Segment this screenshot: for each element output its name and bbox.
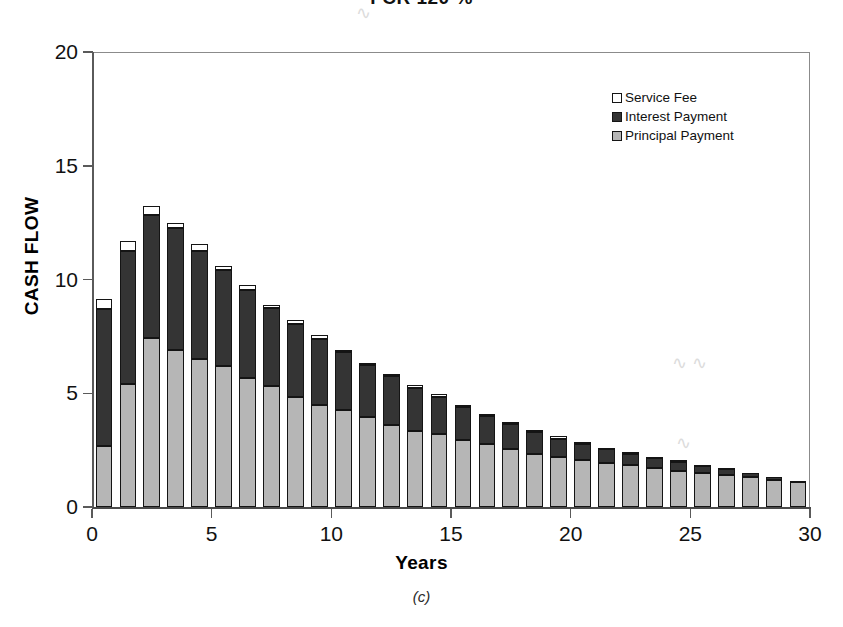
- figure-caption: (c): [0, 588, 843, 605]
- bar-stack: [526, 52, 543, 507]
- bar-segment-interest-payment: [766, 477, 783, 479]
- bar-segment-interest-payment: [167, 228, 184, 350]
- bar-segment-principal-payment: [646, 468, 663, 507]
- bar-stack: [431, 52, 448, 507]
- bar-segment-principal-payment: [718, 475, 735, 507]
- bar-segment-service-fee: [167, 223, 184, 229]
- bar-stack: [574, 52, 591, 507]
- bar-segment-principal-payment: [239, 378, 256, 507]
- bar-stack: [502, 52, 519, 507]
- bar-segment-principal-payment: [263, 386, 280, 507]
- bar-segment-principal-payment: [143, 338, 160, 507]
- bar-segment-principal-payment: [407, 431, 424, 507]
- bar-segment-principal-payment: [550, 457, 567, 507]
- x-axis-tick-label: 10: [301, 522, 361, 546]
- bar-segment-interest-payment: [694, 466, 711, 473]
- lightgray-square-icon: [612, 131, 622, 141]
- x-axis-title: Years: [0, 552, 843, 574]
- bar-segment-principal-payment: [694, 473, 711, 507]
- bar-stack: [359, 52, 376, 507]
- bar-segment-principal-payment: [670, 471, 687, 507]
- bar-segment-principal-payment: [479, 444, 496, 507]
- bar-segment-principal-payment: [502, 449, 519, 507]
- bar-segment-service-fee: [431, 394, 448, 396]
- bar-segment-interest-payment: [526, 432, 543, 454]
- bar-segment-interest-payment: [143, 215, 160, 338]
- bar-segment-service-fee: [263, 305, 280, 308]
- y-axis-title: CASH FLOW: [21, 166, 43, 346]
- x-axis-tick: [570, 509, 572, 518]
- y-axis-tick-label: 20: [4, 41, 78, 62]
- bar-segment-interest-payment: [383, 376, 400, 425]
- bar-stack: [407, 52, 424, 507]
- x-axis-tick: [211, 509, 213, 518]
- y-axis-tick: [83, 506, 93, 508]
- x-axis-tick-label: 25: [660, 522, 720, 546]
- bar-segment-interest-payment: [287, 324, 304, 397]
- bar-segment-service-fee: [191, 244, 208, 251]
- legend-item: Service Fee: [612, 88, 734, 107]
- bar-segment-service-fee: [574, 442, 591, 444]
- bar-segment-interest-payment: [790, 481, 807, 483]
- white-square-icon: [612, 93, 622, 103]
- bar-segment-principal-payment: [120, 384, 137, 507]
- bar-segment-service-fee: [479, 414, 496, 416]
- bar-segment-principal-payment: [167, 350, 184, 507]
- bar-segment-interest-payment: [407, 388, 424, 431]
- legend-item: Principal Payment: [612, 126, 734, 145]
- bar-segment-principal-payment: [311, 405, 328, 507]
- bar-segment-interest-payment: [191, 251, 208, 359]
- bar-stack: [311, 52, 328, 507]
- bar-segment-service-fee: [407, 385, 424, 387]
- bar-segment-service-fee: [550, 436, 567, 438]
- bar-stack: [215, 52, 232, 507]
- bar-segment-service-fee: [335, 350, 352, 352]
- bar-segment-principal-payment: [766, 480, 783, 507]
- bar-segment-interest-payment: [215, 270, 232, 366]
- bar-segment-service-fee: [239, 285, 256, 290]
- x-axis-tick-label: 5: [182, 522, 242, 546]
- dark-square-icon: [612, 112, 622, 122]
- bar-segment-principal-payment: [191, 359, 208, 507]
- bar-stack: [790, 52, 807, 507]
- bar-segment-interest-payment: [263, 308, 280, 386]
- bar-segment-service-fee: [455, 405, 472, 407]
- bar-segment-interest-payment: [335, 352, 352, 410]
- bar-segment-interest-payment: [502, 424, 519, 449]
- bar-segment-principal-payment: [790, 482, 807, 507]
- bar-stack: [383, 52, 400, 507]
- bar-segment-interest-payment: [574, 444, 591, 460]
- bar-segment-principal-payment: [359, 417, 376, 507]
- bar-stack: [239, 52, 256, 507]
- bar-segment-service-fee: [96, 299, 113, 309]
- x-axis-tick: [450, 509, 452, 518]
- bar-segment-principal-payment: [383, 425, 400, 507]
- bar-segment-interest-payment: [479, 416, 496, 444]
- legend-item: Interest Payment: [612, 107, 734, 126]
- bar-segment-service-fee: [287, 320, 304, 323]
- bar-segment-interest-payment: [598, 449, 615, 463]
- bar-segment-principal-payment: [742, 477, 759, 507]
- bar-segment-principal-payment: [335, 410, 352, 507]
- bar-stack: [263, 52, 280, 507]
- legend-item-label: Principal Payment: [625, 126, 734, 145]
- bar-segment-service-fee: [120, 241, 137, 251]
- bar-segment-service-fee: [670, 460, 687, 462]
- chart-legend: Service FeeInterest PaymentPrincipal Pay…: [612, 88, 734, 145]
- x-axis-tick-label: 20: [541, 522, 601, 546]
- bar-stack: [335, 52, 352, 507]
- bar-segment-interest-payment: [239, 290, 256, 379]
- bar-segment-service-fee: [359, 363, 376, 365]
- bar-segment-principal-payment: [96, 446, 113, 507]
- bar-segment-service-fee: [718, 468, 735, 470]
- x-axis-tick: [690, 509, 692, 518]
- bar-segment-principal-payment: [526, 454, 543, 507]
- bar-segment-service-fee: [622, 452, 639, 454]
- x-axis-tick: [331, 509, 333, 518]
- bar-segment-service-fee: [526, 430, 543, 432]
- bar-segment-service-fee: [215, 266, 232, 271]
- x-axis-tick-label: 0: [62, 522, 122, 546]
- bar-stack: [167, 52, 184, 507]
- legend-item-label: Service Fee: [625, 88, 697, 107]
- bar-stack: [191, 52, 208, 507]
